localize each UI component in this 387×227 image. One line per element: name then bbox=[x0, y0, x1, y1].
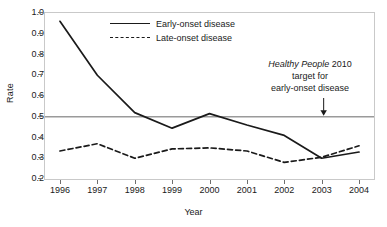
chart-legend: Early-onset disease Late-onset disease bbox=[110, 17, 235, 45]
annotation-year-text: 2010 bbox=[329, 59, 352, 69]
annotation-line-3: early-onset disease bbox=[240, 82, 380, 94]
legend-item-late-onset: Late-onset disease bbox=[110, 31, 235, 45]
legend-key-solid-line-icon bbox=[110, 19, 150, 29]
down-arrow-icon bbox=[320, 110, 326, 116]
legend-label-early-onset: Early-onset disease bbox=[156, 19, 235, 29]
legend-key-dashed-line-icon bbox=[110, 33, 150, 43]
line-chart: Rate 0.20.30.40.50.60.70.80.91.0 1996199… bbox=[0, 0, 387, 227]
legend-item-early-onset: Early-onset disease bbox=[110, 17, 235, 31]
annotation-line-2: target for bbox=[240, 70, 380, 82]
annotation-italic-text: Healthy People bbox=[268, 59, 329, 69]
annotation-line-1: Healthy People 2010 bbox=[240, 58, 380, 70]
legend-label-late-onset: Late-onset disease bbox=[156, 33, 232, 43]
annotation-healthy-people-target: Healthy People 2010 target for early-ons… bbox=[240, 58, 380, 94]
x-axis-title: Year bbox=[0, 207, 387, 217]
